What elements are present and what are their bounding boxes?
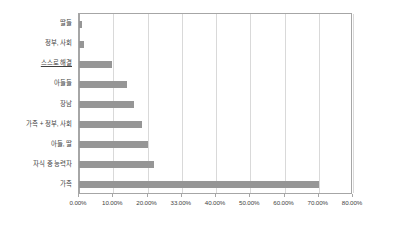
x-tickmark-4 — [215, 194, 216, 197]
category-label-7: 자식 중 능력자 — [33, 160, 72, 168]
plot-area — [78, 13, 352, 194]
x-tickmark-3 — [181, 194, 182, 197]
x-tickmark-5 — [249, 194, 250, 197]
x-tick-label-5: 50.00% — [239, 199, 259, 206]
category-label-6: 아들, 딸 — [51, 140, 72, 148]
category-label-4: 장남 — [60, 100, 72, 108]
category-label-5: 가족 + 정부, 사회 — [26, 120, 72, 128]
bar-4 — [79, 101, 134, 108]
category-label-2: 스스로 해결 — [41, 59, 72, 67]
category-label-1: 정부, 사회 — [45, 39, 72, 47]
gridline-8 — [353, 14, 354, 193]
x-tick-label-1: 10.00% — [102, 199, 122, 206]
x-tick-label-3: 33.00% — [171, 199, 191, 206]
bar-2 — [79, 61, 112, 68]
x-tickmark-8 — [352, 194, 353, 197]
x-tickmark-2 — [147, 194, 148, 197]
bar-row — [79, 175, 351, 195]
bar-1 — [79, 41, 84, 48]
x-tick-label-4: 40.00% — [205, 199, 225, 206]
bar-8 — [79, 181, 319, 188]
x-tick-label-6: 60.00% — [273, 199, 293, 206]
x-tickmark-6 — [284, 194, 285, 197]
x-tick-label-7: 70.00% — [308, 199, 328, 206]
x-tick-label-8: 80.00% — [342, 199, 362, 206]
bar-row — [79, 94, 351, 114]
bar-6 — [79, 141, 148, 148]
bar-3 — [79, 81, 127, 88]
bar-row — [79, 14, 351, 34]
x-tickmark-0 — [78, 194, 79, 197]
bars-layer — [79, 14, 351, 193]
category-axis-labels: 딸들정부, 사회스스로 해결아들들장남가족 + 정부, 사회아들, 딸자식 중 … — [0, 13, 76, 194]
x-tick-label-0: 0.00% — [69, 199, 86, 206]
bar-row — [79, 34, 351, 54]
bar-row — [79, 54, 351, 74]
bar-0 — [79, 21, 82, 28]
category-label-0: 딸들 — [60, 19, 72, 27]
category-label-8: 가족 — [60, 180, 72, 188]
x-tickmark-1 — [112, 194, 113, 197]
bar-row — [79, 135, 351, 155]
bar-7 — [79, 161, 154, 168]
bar-row — [79, 155, 351, 175]
bar-5 — [79, 121, 142, 128]
bar-row — [79, 115, 351, 135]
category-label-3: 아들들 — [54, 79, 72, 87]
x-tick-label-2: 20.00% — [136, 199, 156, 206]
x-tickmark-7 — [318, 194, 319, 197]
bar-row — [79, 74, 351, 94]
bar-chart: 딸들정부, 사회스스로 해결아들들장남가족 + 정부, 사회아들, 딸자식 중 … — [0, 0, 396, 229]
